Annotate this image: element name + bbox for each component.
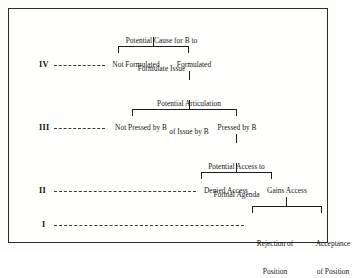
figure-frame: Potential Cause for B to Formulate Issue… — [8, 8, 328, 243]
bracket-level-ii — [201, 172, 272, 179]
node-not-pressed-by-b: Not Pressed by B — [105, 123, 177, 132]
bracket-level-iii — [132, 109, 237, 116]
node-acceptance-line1: Acceptance — [303, 239, 355, 248]
node-formulated: Formulated — [166, 60, 222, 69]
level-label-ii: II — [39, 186, 46, 195]
stem-pressed-to-access — [236, 134, 237, 143]
stem-formulated-to-articulation — [189, 71, 190, 80]
node-root-line1: Potential Cause for B to — [89, 36, 234, 45]
node-acceptance-of-position: Acceptance of Position — [303, 220, 355, 278]
dashline-level-iii — [54, 128, 105, 129]
dashline-level-iv — [54, 65, 105, 66]
node-gains-access: Gains Access — [259, 186, 315, 195]
bracket-level-iv — [118, 46, 189, 53]
node-rejection-of-position: Rejection of Position — [247, 220, 303, 278]
node-acceptance-line2: of Position — [303, 267, 355, 276]
node-denied-access: Denied Access — [196, 186, 256, 195]
node-rejection-line2: Position — [247, 267, 303, 276]
node-rejection-line1: Rejection of — [247, 239, 303, 248]
level-label-i: I — [42, 220, 46, 229]
dashline-level-i — [54, 225, 244, 226]
node-not-formulated: Not Formulated — [105, 60, 167, 69]
level-label-iv: IV — [39, 60, 49, 69]
node-pressed-by-b: Pressed by B — [205, 123, 269, 132]
level-label-iii: III — [39, 123, 49, 132]
dashline-level-ii — [54, 191, 196, 192]
bracket-level-i — [252, 206, 322, 213]
